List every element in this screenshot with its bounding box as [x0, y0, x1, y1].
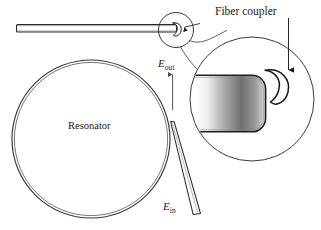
resonator-label: Resonator	[68, 120, 111, 131]
figure-canvas: Fiber coupler Resonator Eout Ein	[0, 0, 321, 230]
schematic-drawing	[0, 0, 321, 230]
e-in-subscript: in	[170, 206, 176, 215]
e-out-symbol: E	[158, 57, 165, 69]
horizontal-waveguide	[17, 25, 177, 33]
e-in-symbol: E	[163, 200, 170, 212]
e-in-label: Ein	[163, 200, 176, 212]
e-out-label: Eout	[158, 57, 175, 69]
fiber-coupler-label: Fiber coupler	[215, 5, 277, 17]
resonator-ring	[12, 60, 170, 218]
magnified-resonator-edge	[190, 75, 266, 132]
e-out-subscript: out	[165, 63, 175, 72]
